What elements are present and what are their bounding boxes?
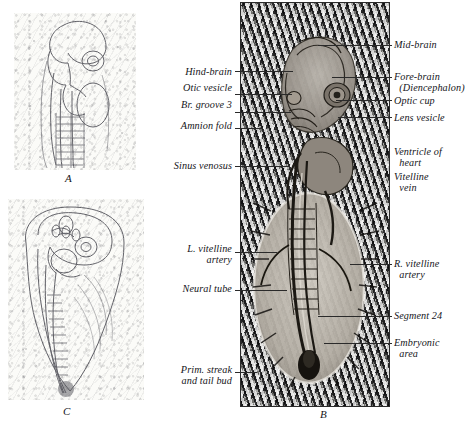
label-optic-cup: Optic cup xyxy=(394,95,473,106)
label-fore-brain-diencephalon: Fore-brain (Diencephalon) xyxy=(394,71,473,94)
panel-c-letter: C xyxy=(63,405,70,417)
label-l-vitelline-artery: L. vitelline artery xyxy=(100,243,232,266)
leader-optic-cup xyxy=(336,100,392,101)
leader-amnion-fold xyxy=(235,128,263,129)
leader-r-vitelline-artery xyxy=(350,264,392,265)
label-lens-vesicle: Lens vesicle xyxy=(394,112,473,123)
leader-neural-tube xyxy=(235,290,287,291)
label-otic-vesicle: Otic vesicle xyxy=(100,82,232,93)
label-hind-brain: Hind-brain xyxy=(100,66,232,77)
panel-b-embryo-in-chorion xyxy=(241,3,389,406)
leader-embryonic-area xyxy=(324,343,392,344)
label-sinus-venosus: Sinus venosus xyxy=(100,160,232,171)
label-amnion-fold: Amnion fold xyxy=(100,120,232,131)
leader-segment-24 xyxy=(318,316,392,317)
panel-b-image xyxy=(240,2,390,407)
leader-prim-streak xyxy=(235,372,257,373)
label-embryonic-area: Embryonic area xyxy=(394,337,473,360)
leader-mid-brain xyxy=(318,45,392,46)
panel-b-letter: B xyxy=(320,408,327,420)
leader-otic-vesicle xyxy=(235,94,292,95)
leader-l-vitelline-artery xyxy=(235,252,277,253)
label-neural-tube: Neural tube xyxy=(100,283,232,294)
leader-fore-brain xyxy=(332,77,392,78)
panel-a-letter: A xyxy=(65,172,72,184)
leader-hind-brain xyxy=(235,71,293,72)
label-mid-brain: Mid-brain xyxy=(394,39,473,50)
label-prim-streak-and-tail-bud: Prim. streak and tail bud xyxy=(100,364,232,387)
leader-sinus-venosus xyxy=(235,166,290,167)
leader-lens-vesicle xyxy=(338,117,392,118)
label-br-groove-3: Br. groove 3 xyxy=(100,99,232,110)
label-segment-24: Segment 24 xyxy=(394,310,473,321)
label-ventricle-of-heart: Ventricle of heart xyxy=(394,146,473,169)
leader-br-groove-3 xyxy=(235,112,291,113)
label-vitelline-vein: Vitelline vein xyxy=(394,171,473,194)
label-r-vitelline-artery: R. vitelline artery xyxy=(394,258,473,281)
